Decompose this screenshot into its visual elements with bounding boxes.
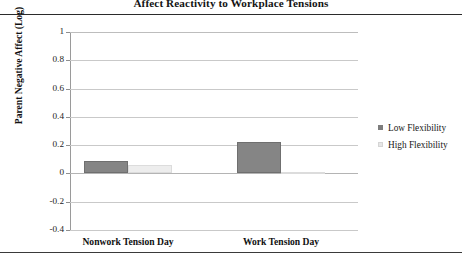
y-tick-label: 1 <box>30 27 64 36</box>
y-tick-mark <box>66 145 70 146</box>
x-tick-label: Work Tension Day <box>201 236 361 247</box>
high-flexibility-swatch <box>378 142 383 147</box>
gridline <box>70 117 358 118</box>
legend-item-low-flexibility[interactable]: Low Flexibility <box>378 119 448 136</box>
y-tick-mark <box>66 173 70 174</box>
gridline <box>70 60 358 61</box>
gridline <box>70 145 358 146</box>
plot-area <box>70 32 358 230</box>
low-flexibility-swatch <box>378 125 383 130</box>
y-tick-label: 0 <box>30 168 64 177</box>
x-tick-label: Nonwork Tension Day <box>48 236 208 247</box>
y-tick-mark <box>66 89 70 90</box>
y-tick-label: 0.2 <box>30 140 64 149</box>
y-tick-label: -0.2 <box>30 197 64 206</box>
y-tick-label: 0.4 <box>30 112 64 121</box>
chart-title: Affect Reactivity to Workplace Tensions <box>0 0 462 9</box>
gridline <box>70 230 358 231</box>
y-tick-label: 0.6 <box>30 84 64 93</box>
bar-low-flexibility-work <box>237 142 281 173</box>
legend-label: Low Flexibility <box>388 123 446 133</box>
gridline <box>70 32 358 33</box>
y-tick-mark <box>66 117 70 118</box>
gridline <box>70 202 358 203</box>
legend-item-high-flexibility[interactable]: High Flexibility <box>378 136 448 153</box>
bar-low-flexibility-nonwork <box>84 161 128 173</box>
y-tick-mark <box>66 202 70 203</box>
gridline <box>70 89 358 90</box>
y-axis-title: Parent Negative Affect (Log) <box>13 0 24 146</box>
legend-label: High Flexibility <box>388 140 448 150</box>
page-rule-top <box>0 14 462 15</box>
bar-high-flexibility-work <box>281 172 325 174</box>
y-tick-label: 0.8 <box>30 55 64 64</box>
bar-high-flexibility-nonwork <box>128 165 172 173</box>
y-tick-label: -0.4 <box>30 225 64 234</box>
y-tick-mark <box>66 230 70 231</box>
y-tick-mark <box>66 32 70 33</box>
page-rule-bottom <box>0 252 462 253</box>
chart-legend: Low Flexibility High Flexibility <box>378 119 448 153</box>
y-tick-mark <box>66 60 70 61</box>
